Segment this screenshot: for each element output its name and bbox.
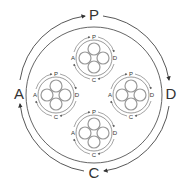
sub-top-label-do: D (113, 55, 118, 61)
sub-cycle-right: P D C A (108, 71, 155, 120)
sub-bottom-label-plan: P (92, 109, 96, 115)
sub-left-label-plan: P (54, 71, 58, 77)
sub-right-label-act: A (108, 92, 112, 98)
sub-left-label-check: C (54, 114, 59, 120)
sub-cycle-top: P D C A (71, 34, 118, 83)
sub-bottom-label-act: A (71, 130, 75, 136)
sub-top-label-act: A (71, 55, 75, 61)
outer-label-check: C (89, 164, 100, 181)
outer-label-plan: P (89, 6, 99, 23)
sub-bottom-label-do: D (113, 130, 118, 136)
arrow-check-to-act (20, 104, 84, 171)
sub-top-label-check: C (92, 77, 97, 83)
outer-label-do: D (166, 85, 177, 102)
sub-top-label-plan: P (92, 34, 96, 40)
main-circle (26, 27, 162, 163)
arrow-plan-to-do (103, 16, 169, 80)
sub-right-label-plan: P (129, 71, 133, 77)
pdca-diagram: P D C A P D C A (0, 0, 188, 188)
sub-left-label-act: A (33, 92, 37, 98)
sub-right-label-do: D (150, 92, 155, 98)
sub-left-label-do: D (75, 92, 80, 98)
outer-label-act: A (14, 85, 24, 102)
sub-cycle-left: P D C A (33, 71, 80, 120)
sub-right-label-check: C (129, 114, 134, 120)
sub-bottom-label-check: C (92, 152, 97, 158)
sub-cycle-bottom: P D C A (71, 109, 118, 158)
